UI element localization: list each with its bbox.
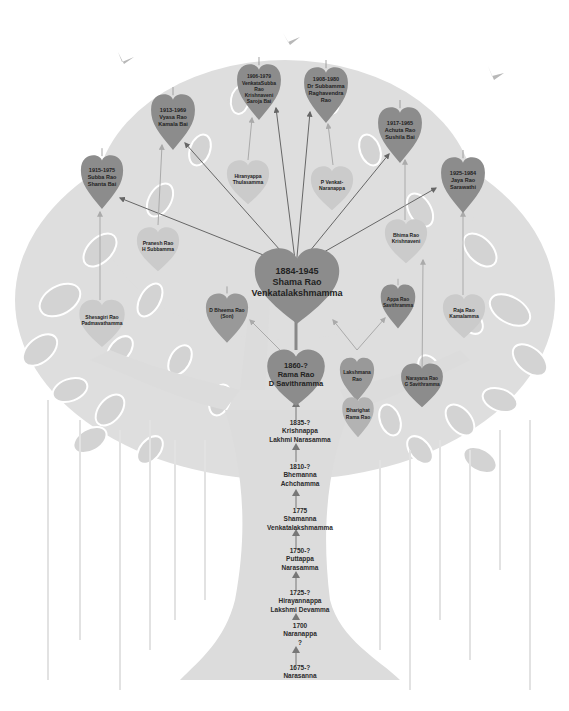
ancestor-node-shamanna[interactable]: 1775 Shamanna Venkatalakshmamma <box>250 507 350 532</box>
node-line: 1913-1969 <box>158 107 188 114</box>
node-line: Krishnappa <box>250 427 350 435</box>
node-line: 1675-? <box>250 664 350 672</box>
node-line: Sushila Bai <box>385 134 416 141</box>
person-node-shama-rao[interactable]: 1884-1945 Shama Rao Venkatalakshmamma <box>253 246 341 326</box>
node-line: Saroja Bai <box>242 98 276 104</box>
node-line: Savithramma <box>383 303 413 309</box>
node-line: Lakshmi Devamma <box>250 606 350 614</box>
person-node-rama-rao[interactable]: 1860-? Rama Rao D Savithramma <box>266 347 326 407</box>
node-line: 1810-? <box>250 463 350 471</box>
node-line: Vyasa Rao <box>158 114 188 121</box>
ancestor-node-narasanna[interactable]: 1675-? Narasanna <box>250 664 350 681</box>
person-node-appa-rao[interactable]: Appa Rao Savithramma <box>380 278 416 330</box>
node-line: 1775 <box>250 507 350 515</box>
node-line: Puttappa <box>250 555 350 563</box>
node-line: Dr Subbamma <box>307 83 344 90</box>
person-node-p-venkat[interactable]: P Venkat- Naranappa <box>310 162 354 212</box>
node-line: Bharighat <box>346 407 370 413</box>
node-line: (Son) <box>209 313 244 319</box>
node-line: 1835-? <box>250 419 350 427</box>
node-line: 1915-1975 <box>88 167 117 174</box>
node-line: Achuta Rao <box>385 127 416 134</box>
node-line: ? <box>250 639 350 647</box>
node-line: Subba Rao <box>88 174 117 181</box>
person-node-achuta-rao[interactable]: 1917-1965 Achuta Rao Sushila Bai <box>377 100 423 164</box>
node-line: Sarawathi <box>450 184 476 191</box>
node-line: Venkatalakshmamma <box>251 288 342 299</box>
node-line: 1860-? <box>269 361 324 370</box>
person-node-vyasa-rao[interactable]: 1913-1969 Vyasa Rao Kamala Bai <box>150 87 196 151</box>
node-line: Rama Rao <box>269 370 324 379</box>
node-line: Naranappa <box>250 630 350 638</box>
node-line: Lakhmi Narasamma <box>250 436 350 444</box>
node-line: Hirayannappa <box>250 597 350 605</box>
node-line: 1906-1979 <box>242 73 276 79</box>
node-line: Rao <box>343 376 371 382</box>
node-line: 1908-1980 <box>307 76 344 83</box>
node-line: 1700 <box>250 622 350 630</box>
node-line: Naranappa <box>319 185 345 191</box>
person-node-narayana-rao[interactable]: Narayana Rao G Savithramma <box>398 360 446 408</box>
node-line: Krishnaveni <box>392 238 421 244</box>
node-line: Shanta Bai <box>88 181 117 188</box>
node-line: 1725-? <box>250 589 350 597</box>
person-node-venkatasubba-rao[interactable]: 1906-1979 VenkataSubba Rao Krishnaveni S… <box>236 57 282 121</box>
node-line: Achchamma <box>250 480 350 488</box>
person-node-jaya-rao[interactable]: 1925-1984 Jaya Rao Sarawathi <box>440 150 486 214</box>
node-line: Lakshmana <box>343 369 371 375</box>
node-line: 1917-1965 <box>385 120 416 127</box>
ancestor-node-naranappa[interactable]: 1700 Naranappa ? <box>250 622 350 647</box>
node-line: G Savithramma <box>404 382 439 388</box>
node-line: Shama Rao <box>251 277 342 288</box>
node-line: Narasanna <box>250 672 350 680</box>
person-node-sheshagiri-rao[interactable]: Shesagiri Rao Padmavathamma <box>78 296 126 348</box>
node-line: Appa Rao <box>383 297 413 303</box>
node-line: Shamanna <box>250 515 350 523</box>
node-line: D Savithramma <box>269 379 324 388</box>
person-node-bheema-rao[interactable]: D Bheema Rao (Son) <box>205 286 249 344</box>
node-line: Thulasamma <box>233 179 264 185</box>
node-line: Kamalamma <box>449 313 478 319</box>
person-node-raja-rao[interactable]: Raja Rao Kamalamma <box>442 290 486 340</box>
ancestor-node-krishnappa[interactable]: 1835-? Krishnappa Lakhmi Narasamma <box>250 419 350 444</box>
node-line: Venkatalakshmamma <box>250 524 350 532</box>
node-line: Narasamma <box>250 564 350 572</box>
node-line: Rao <box>307 97 344 104</box>
ancestor-node-bhemanna[interactable]: 1810-? Bhemanna Achchamma <box>250 463 350 488</box>
node-line: Jaya Rao <box>450 177 476 184</box>
person-node-subba-rao[interactable]: 1915-1975 Subba Rao Shanta Bai <box>80 148 124 210</box>
node-line: 1925-1984 <box>450 170 476 177</box>
node-line: Raghavendra <box>307 90 344 97</box>
node-line: Bhemanna <box>250 471 350 479</box>
node-line: Rama Rao <box>346 414 370 420</box>
node-line: 1884-1945 <box>251 266 342 277</box>
person-node-bhima-rao[interactable]: Bhima Rao Krishnaveni <box>384 215 428 265</box>
family-tree-diagram: 1884-1945 Shama Rao Venkatalakshmamma 18… <box>0 0 569 711</box>
node-line: VenkataSubba <box>242 80 276 86</box>
node-line: Padmavathamma <box>81 320 122 326</box>
node-line: H Subbamma <box>142 246 174 252</box>
ancestor-node-puttappa[interactable]: 1750-? Puttappa Narasamma <box>250 547 350 572</box>
node-line: Kamala Bai <box>158 121 188 128</box>
person-node-pranesh-rao[interactable]: Pranesh Rao H Subbamma <box>136 222 180 274</box>
person-node-hiranyappa[interactable]: Hiranyappa Thulasamma <box>226 156 270 206</box>
ancestor-node-hirayannappa[interactable]: 1725-? Hirayannappa Lakshmi Devamma <box>250 589 350 614</box>
person-node-subbamma[interactable]: 1908-1980 Dr Subbamma Raghavendra Rao <box>302 60 350 124</box>
node-line: 1750-? <box>250 547 350 555</box>
